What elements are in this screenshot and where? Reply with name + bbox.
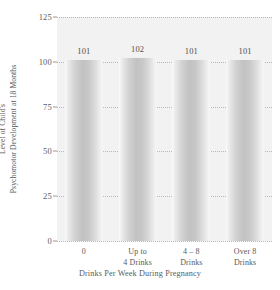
x-category-label: Over 8Drinks	[234, 247, 257, 268]
x-category-line: Drinks	[180, 258, 202, 269]
bar-value-label: 102	[131, 44, 144, 54]
y-tick-mark-0	[53, 241, 57, 242]
y-tick-label-75: 75	[43, 102, 52, 112]
y-axis-title: Level of Child's Psychomotor Development…	[0, 65, 19, 193]
x-category-label: 0	[82, 247, 86, 258]
bar-value-label: 101	[238, 46, 251, 56]
gridline-125	[57, 17, 272, 18]
x-category-line: 0	[82, 247, 86, 258]
x-category-line: Over 8	[234, 247, 257, 258]
y-tick-label-125: 125	[39, 12, 52, 22]
y-axis-title-line2: Psychomotor Development at 18 Months	[8, 65, 19, 193]
bar	[65, 60, 103, 241]
bar	[226, 60, 264, 241]
y-axis-title-line1: Level of Child's	[0, 65, 8, 193]
y-tick-mark-25	[53, 196, 57, 197]
y-tick-mark-125	[53, 17, 57, 18]
bar-value-label: 101	[185, 46, 198, 56]
bar-value-label: 101	[77, 46, 90, 56]
y-tick-mark-75	[53, 106, 57, 107]
x-category-label: Up to4 Drinks	[123, 247, 152, 268]
x-axis-title: Drinks Per Week During Pregnancy	[79, 269, 201, 278]
y-tick-label-0: 0	[48, 236, 52, 246]
bar-chart-figure: 101102101101 0255075100125 Level of Chil…	[0, 0, 280, 290]
y-tick-mark-50	[53, 151, 57, 152]
y-tick-label-50: 50	[43, 146, 52, 156]
gridline-0	[57, 241, 272, 242]
y-tick-label-100: 100	[39, 57, 52, 67]
x-category-line: 4 Drinks	[123, 258, 152, 269]
bar	[119, 58, 157, 241]
x-category-line: Up to	[123, 247, 152, 258]
bar	[172, 60, 210, 241]
x-category-line: Drinks	[234, 258, 257, 269]
x-category-label: 4 – 8Drinks	[180, 247, 202, 268]
y-tick-mark-100	[53, 61, 57, 62]
x-category-line: 4 – 8	[180, 247, 202, 258]
y-tick-label-25: 25	[43, 191, 52, 201]
